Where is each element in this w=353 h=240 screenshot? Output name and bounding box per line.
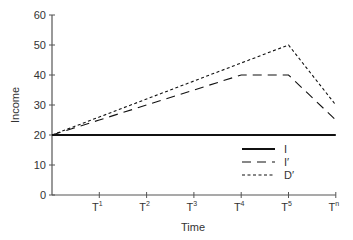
legend-label: D′ [284,169,294,181]
y-tick-label: 0 [40,189,46,201]
series-line-short-dash [52,45,336,135]
y-tick-label: 60 [34,9,46,21]
x-tick-label: T5 [281,200,292,213]
legend-label: I [284,143,287,155]
series-lines [52,45,336,135]
x-tick-label: T1 [92,200,103,213]
legend: II′D′ [242,143,294,181]
x-axis-label: Time [181,221,205,233]
income-time-chart: 0102030405060 T1T2T3T4T5Tn II′D′ Income … [0,0,353,240]
y-axis-label: Income [9,87,21,123]
legend-label: I′ [284,156,289,168]
y-tick-label: 50 [34,39,46,51]
x-tick-label: T2 [139,200,150,213]
series-line-long-dash [52,75,336,135]
y-tick-label: 30 [34,99,46,111]
x-tick-label: Tn [328,200,339,213]
y-tick-label: 10 [34,159,46,171]
x-axis: T1T2T3T4T5Tn [52,192,339,213]
x-tick-label: T4 [234,200,245,213]
y-tick-label: 40 [34,69,46,81]
x-tick-label: T3 [187,200,198,213]
y-axis: 0102030405060 [34,9,55,201]
y-tick-label: 20 [34,129,46,141]
